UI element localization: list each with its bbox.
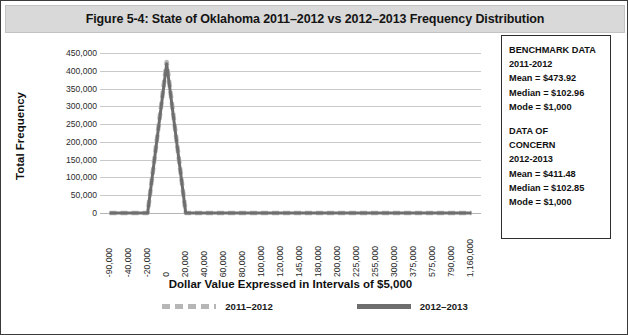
y-axis-tick-label: 200,000 [39, 137, 97, 147]
benchmark-heading: BENCHMARK DATA [509, 43, 610, 57]
legend-swatch-solid-icon [357, 304, 411, 309]
x-axis-tick-label: 0 [161, 272, 173, 277]
figure-container: Figure 5-4: State of Oklahoma 2011–2012 … [0, 0, 628, 335]
x-axis-title: Dollar Value Expressed in Intervals of $… [100, 278, 481, 290]
series-lines [100, 53, 481, 213]
y-axis-tick-labels: 450,000400,000350,000300,000250,000200,0… [39, 53, 97, 213]
concern-heading-line1: DATA OF [509, 124, 610, 138]
legend-swatch-dashed-icon [162, 304, 216, 309]
y-axis-tick-label: 400,000 [39, 66, 97, 76]
x-axis-tick-label: 790,000 [446, 246, 458, 277]
y-axis-tick-label: 0 [39, 208, 97, 218]
x-axis-tick-label: 225,000 [351, 246, 363, 277]
y-axis-tick-label: 150,000 [39, 155, 97, 165]
x-axis-tick-label: 20,000 [180, 251, 192, 277]
x-axis-tick-label: 100,000 [256, 246, 268, 277]
concern-median: Median = $102.85 [509, 181, 610, 195]
x-axis-tick-label: -20,000 [142, 248, 154, 277]
x-axis-tick-label: 60,000 [218, 251, 230, 277]
page-title: Figure 5-4: State of Oklahoma 2011–2012 … [86, 12, 545, 26]
y-axis-tick-label: 350,000 [39, 84, 97, 94]
x-axis-tick-labels: -90,000-40,000-20,000020,00040,00060,000… [100, 215, 481, 277]
x-axis-tick-label: -90,000 [104, 248, 116, 277]
benchmark-mean: Mean = $473.92 [509, 71, 610, 85]
x-axis-tick-label: -40,000 [123, 248, 135, 277]
y-axis-tick-label: 450,000 [39, 48, 97, 58]
figure-title-bar: Figure 5-4: State of Oklahoma 2011–2012 … [5, 5, 625, 33]
chart-legend: 2011–2012 2012–2013 [1, 294, 628, 318]
x-axis-tick-label: 145,000 [294, 246, 306, 277]
y-axis-tick-label: 250,000 [39, 119, 97, 129]
benchmark-median: Median = $102.96 [509, 86, 610, 100]
callout-spacer [509, 114, 610, 124]
x-axis-tick-label: 1,160,000 [465, 239, 477, 277]
x-axis-tick-label: 200,000 [332, 246, 344, 277]
x-axis-tick-label: 575,000 [427, 246, 439, 277]
benchmark-period: 2011-2012 [509, 57, 610, 71]
x-axis-tick-label: 80,000 [237, 251, 249, 277]
x-axis-tick-label: 255,000 [370, 246, 382, 277]
y-axis-tick-label: 50,000 [39, 190, 97, 200]
plot-area [100, 53, 481, 213]
x-axis-tick-label: 375,000 [408, 246, 420, 277]
series-line [110, 64, 472, 213]
x-axis-tick-label: 40,000 [199, 251, 211, 277]
y-axis-title: Total Frequency [14, 76, 26, 196]
concern-mode: Mode = $1,000 [509, 195, 610, 209]
x-axis-tick-label: 300,000 [389, 246, 401, 277]
x-axis-tick-label: 180,000 [313, 246, 325, 277]
concern-period: 2012-2013 [509, 152, 610, 166]
concern-mean: Mean = $411.48 [509, 167, 610, 181]
y-axis-tick-label: 300,000 [39, 101, 97, 111]
y-axis-tick-label: 100,000 [39, 172, 97, 182]
benchmark-mode: Mode = $1,000 [509, 100, 610, 114]
legend-item-2012-2013: 2012–2013 [357, 301, 468, 312]
legend-item-2011-2012: 2011–2012 [162, 301, 273, 312]
legend-label-2011-2012: 2011–2012 [225, 301, 273, 312]
x-axis-tick-label: 120,000 [275, 246, 287, 277]
concern-heading-line2: CONCERN [509, 138, 610, 152]
statistics-callout-box: BENCHMARK DATA 2011-2012 Mean = $473.92 … [501, 35, 611, 239]
legend-label-2012-2013: 2012–2013 [420, 301, 468, 312]
